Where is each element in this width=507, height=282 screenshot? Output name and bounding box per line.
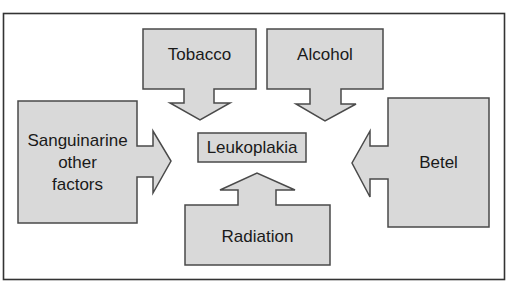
alcohol-label: Alcohol	[267, 40, 383, 70]
sanguinarine-label-line-3: factors	[52, 174, 103, 196]
radiation-label: Radiation	[185, 222, 330, 252]
sanguinarine-label-line-1: Sanguinarine	[27, 130, 127, 152]
sanguinarine-label: Sanguinarine other factors	[18, 130, 137, 196]
leukoplakia-label: Leukoplakia	[198, 133, 306, 162]
sanguinarine-label-line-2: other	[58, 152, 97, 174]
betel-label: Betel	[388, 148, 489, 178]
tobacco-label: Tobacco	[143, 40, 256, 70]
